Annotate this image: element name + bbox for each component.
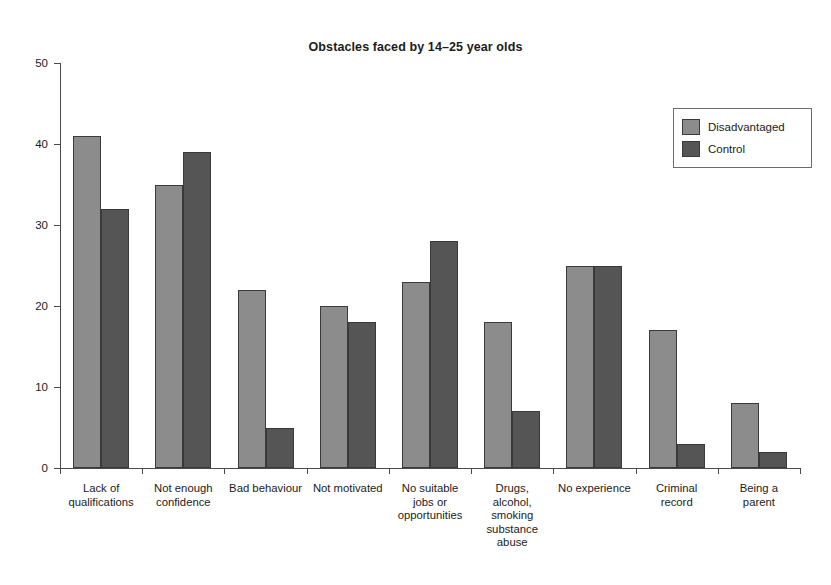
bar-1-8 [759, 452, 787, 468]
x-tick-8 [718, 468, 719, 474]
y-tick-label-10: 10 [0, 381, 48, 393]
bar-0-0 [73, 136, 101, 468]
y-tick-label-50: 50 [0, 57, 48, 69]
bar-1-3 [348, 322, 376, 468]
y-tick-label-30: 30 [0, 219, 48, 231]
category-label-2: Bad behaviour [224, 482, 306, 496]
x-tick-0 [60, 468, 61, 474]
x-tick-5 [471, 468, 472, 474]
category-label-3: Not motivated [307, 482, 389, 496]
category-label-6: No experience [553, 482, 635, 496]
category-label-4: No suitable jobs or opportunities [389, 482, 471, 523]
bar-0-3 [320, 306, 348, 468]
legend-label-control: Control [708, 143, 745, 155]
bar-0-1 [155, 185, 183, 469]
category-label-1: Not enough confidence [142, 482, 224, 509]
y-tick-label-20: 20 [0, 300, 48, 312]
y-tick-label-0: 0 [0, 462, 48, 474]
x-tick-7 [636, 468, 637, 474]
legend-label-disadvantaged: Disadvantaged [708, 121, 785, 133]
category-label-7: Criminal record [636, 482, 718, 509]
x-tick-2 [224, 468, 225, 474]
bar-1-6 [594, 266, 622, 469]
bar-1-2 [266, 428, 294, 469]
bar-1-0 [101, 209, 129, 468]
bar-0-8 [731, 403, 759, 468]
bar-chart: Obstacles faced by 14–25 year olds 01020… [0, 0, 831, 585]
legend-swatch-disadvantaged [682, 119, 700, 135]
x-axis-line [60, 468, 801, 469]
chart-legend: Disadvantaged Control [673, 108, 812, 168]
bar-0-2 [238, 290, 266, 468]
bar-1-5 [512, 411, 540, 468]
bar-1-1 [183, 152, 211, 468]
x-tick-6 [553, 468, 554, 474]
category-label-5: Drugs, alcohol, smoking substance abuse [471, 482, 553, 550]
bar-1-4 [430, 241, 458, 468]
category-label-8: Being a parent [718, 482, 800, 509]
category-label-0: Lack of qualifications [60, 482, 142, 509]
x-tick-4 [389, 468, 390, 474]
bar-0-6 [566, 266, 594, 469]
x-tick-1 [142, 468, 143, 474]
chart-title: Obstacles faced by 14–25 year olds [0, 40, 831, 54]
bar-0-5 [484, 322, 512, 468]
legend-item-control: Control [682, 138, 803, 160]
x-tick-end [800, 468, 801, 474]
x-tick-3 [307, 468, 308, 474]
bar-0-7 [649, 330, 677, 468]
bar-0-4 [402, 282, 430, 468]
bar-1-7 [677, 444, 705, 468]
legend-swatch-control [682, 141, 700, 157]
legend-item-disadvantaged: Disadvantaged [682, 116, 803, 138]
y-tick-label-40: 40 [0, 138, 48, 150]
